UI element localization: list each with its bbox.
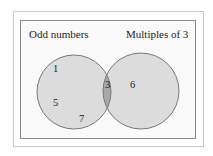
- element-3: 3: [105, 79, 110, 90]
- element-7: 7: [79, 113, 84, 124]
- right-set-label: Multiples of 3: [126, 28, 189, 40]
- venn-diagram-figure: Odd numbers Multiples of 3 1 5 7 3 6: [0, 0, 213, 156]
- venn-diagram: Odd numbers Multiples of 3 1 5 7 3 6: [0, 0, 213, 156]
- element-1: 1: [53, 63, 58, 74]
- element-6: 6: [130, 79, 135, 90]
- element-5: 5: [53, 97, 58, 108]
- left-set-label: Odd numbers: [29, 28, 89, 40]
